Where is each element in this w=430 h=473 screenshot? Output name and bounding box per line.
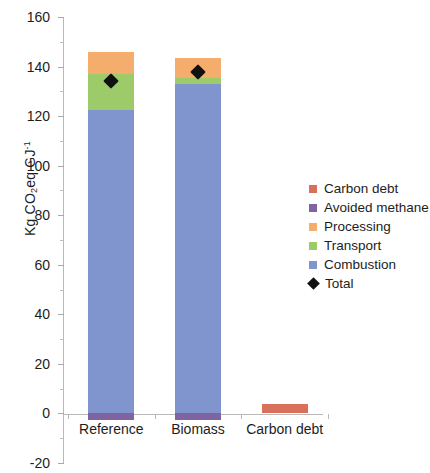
legend-swatch-square-icon bbox=[309, 223, 317, 231]
y-axis-label-sub: 2 bbox=[29, 188, 39, 193]
y-tick-label--20: -20 bbox=[30, 455, 50, 471]
y-minor-tick-90 bbox=[60, 190, 64, 191]
legend-item-combustion[interactable]: Combustion bbox=[309, 255, 430, 274]
x-label-reference: Reference bbox=[79, 421, 144, 437]
y-tick-label-140: 140 bbox=[27, 59, 50, 75]
x-label-carbon-debt: Carbon debt bbox=[246, 421, 323, 437]
y-tick-label-100: 100 bbox=[27, 158, 50, 174]
bar-segment-carbon-debt bbox=[262, 404, 308, 414]
legend-swatch-diamond-icon bbox=[307, 277, 320, 290]
legend-item-carbon-debt[interactable]: Carbon debt bbox=[309, 179, 430, 198]
y-axis-label-sup: -1 bbox=[22, 141, 32, 149]
bar-carbon-debt[interactable] bbox=[262, 17, 308, 463]
y-tick-140: 140 bbox=[58, 67, 64, 68]
y-tick-label-80: 80 bbox=[34, 207, 50, 223]
y-minor-tick-130 bbox=[60, 91, 64, 92]
plot-area: -20020406080100120140160 ReferenceBiomas… bbox=[63, 17, 323, 463]
legend-swatch-square-icon bbox=[309, 261, 317, 269]
y-minor-tick--10 bbox=[60, 438, 64, 439]
legend-item-processing[interactable]: Processing bbox=[309, 217, 430, 236]
bar-segment-avoided-methane bbox=[175, 413, 221, 419]
chart-legend: Carbon debtAvoided methaneProcessingTran… bbox=[309, 179, 430, 293]
legend-label: Carbon debt bbox=[324, 181, 398, 196]
bar-biomass[interactable] bbox=[175, 17, 221, 463]
legend-item-transport[interactable]: Transport bbox=[309, 236, 430, 255]
x-label-biomass: Biomass bbox=[171, 421, 225, 437]
chart-figure: Kg CO2eq GJ-1 -20020406080100120140160 R… bbox=[0, 0, 430, 473]
y-tick-40: 40 bbox=[58, 314, 64, 315]
y-minor-tick-50 bbox=[60, 290, 64, 291]
y-tick-100: 100 bbox=[58, 166, 64, 167]
y-tick-label-20: 20 bbox=[34, 356, 50, 372]
x-tick-0 bbox=[68, 414, 69, 419]
x-tick-1 bbox=[155, 414, 156, 419]
y-tick-80: 80 bbox=[58, 215, 64, 216]
y-tick-0: 0 bbox=[58, 413, 64, 414]
legend-item-total[interactable]: Total bbox=[309, 274, 430, 293]
legend-swatch-square-icon bbox=[309, 242, 317, 250]
y-minor-tick-70 bbox=[60, 240, 64, 241]
y-tick-20: 20 bbox=[58, 364, 64, 365]
y-tick-160: 160 bbox=[58, 17, 64, 18]
y-tick-120: 120 bbox=[58, 116, 64, 117]
y-tick-label-40: 40 bbox=[34, 306, 50, 322]
bar-segment-processing bbox=[88, 52, 134, 74]
legend-label: Avoided methane bbox=[324, 200, 429, 215]
x-tick-2 bbox=[241, 414, 242, 419]
legend-swatch-square-icon bbox=[309, 185, 317, 193]
y-tick-label-160: 160 bbox=[27, 9, 50, 25]
y-minor-tick-30 bbox=[60, 339, 64, 340]
y-minor-tick-150 bbox=[60, 42, 64, 43]
y-tick--20: -20 bbox=[58, 463, 64, 464]
y-minor-tick-10 bbox=[60, 389, 64, 390]
x-tick-3 bbox=[328, 414, 329, 419]
legend-label: Transport bbox=[324, 238, 381, 253]
y-tick-label-0: 0 bbox=[42, 405, 50, 421]
y-minor-tick-110 bbox=[60, 141, 64, 142]
legend-swatch-square-icon bbox=[309, 204, 317, 212]
bar-segment-avoided-methane bbox=[88, 413, 134, 419]
bar-segment-combustion bbox=[175, 84, 221, 414]
y-tick-60: 60 bbox=[58, 265, 64, 266]
legend-label: Processing bbox=[324, 219, 391, 234]
legend-item-avoided-methane[interactable]: Avoided methane bbox=[309, 198, 430, 217]
y-tick-label-60: 60 bbox=[34, 257, 50, 273]
legend-label: Combustion bbox=[324, 257, 396, 272]
bar-segment-combustion bbox=[88, 110, 134, 414]
legend-label: Total bbox=[325, 276, 354, 291]
y-tick-label-120: 120 bbox=[27, 108, 50, 124]
